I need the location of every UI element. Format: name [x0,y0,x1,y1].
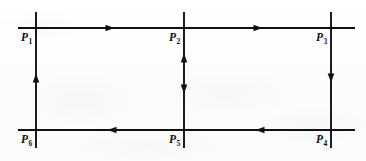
node-label-p2: P2 [169,32,180,44]
node-label-base: P [169,133,176,145]
arrow-left-riser [33,74,40,83]
node-label-base: P [169,31,176,43]
arrow-bottom-left-segment [108,127,117,134]
node-label-subscript: 6 [28,139,32,148]
node-label-subscript: 4 [323,139,327,148]
arrow-top-left-segment [106,25,115,32]
arrow-middle-riser-upper [181,54,188,63]
arrow-bottom-right-segment [256,127,265,134]
node-label-subscript: 1 [28,37,32,46]
node-label-subscript: 3 [323,37,327,46]
node-label-p5: P5 [169,134,180,146]
arrow-right-riser [328,74,335,83]
diagram-canvas [0,0,366,161]
arrow-middle-riser-lower [181,85,188,94]
node-label-p1: P1 [21,32,32,44]
rails-group [18,12,355,148]
arrow-top-right-segment [254,25,263,32]
node-label-base: P [21,133,28,145]
node-label-p6: P6 [21,134,32,146]
node-label-base: P [316,31,323,43]
node-label-base: P [316,133,323,145]
node-label-p3: P3 [316,32,327,44]
node-label-subscript: 2 [176,37,180,46]
node-label-base: P [21,31,28,43]
mesh-circuit-diagram: P1P2P3P4P5P6 [0,0,366,161]
node-label-subscript: 5 [176,139,180,148]
node-label-p4: P4 [316,134,327,146]
